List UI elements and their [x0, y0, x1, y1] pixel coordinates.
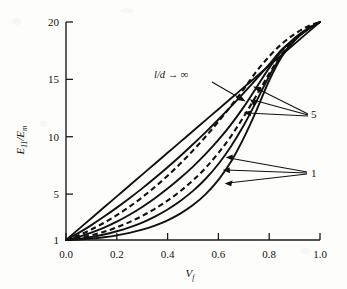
annotation-5-leader-c [247, 113, 308, 116]
y-axis-tick-label: 5 [54, 188, 60, 200]
x-axis-tick-label: 0.6 [212, 248, 226, 260]
data-curves [66, 22, 320, 240]
y-axis-title-denominator-sub: m [20, 125, 29, 131]
x-axis-tick-label: 0.0 [59, 248, 73, 260]
annotation-1-leader-b [226, 170, 307, 173]
y-axis-tick-label: 15 [48, 73, 60, 85]
y-axis-tick-labels: 15101520 [48, 16, 60, 246]
x-axis-tick-label: 0.4 [161, 248, 175, 260]
annotation-5-leader-a [256, 88, 308, 114]
annotation-1-leader-a [229, 158, 307, 172]
y-axis-title-numerator-sub: 11 [20, 141, 29, 148]
annotation-1-label: 1 [311, 167, 317, 179]
annotation-5-label: 5 [311, 108, 317, 120]
figure-container: 15101520 0.00.20.40.60.81.0 E11/Em Vf l/… [0, 0, 347, 289]
annotation-aspect-ratio-1: 1 [223, 155, 317, 187]
annotation-1-leader-c [228, 174, 307, 183]
y-axis-title: E11/Em [14, 125, 29, 155]
y-axis-tick-label: 10 [48, 131, 60, 143]
annotation-infinity-label: l/d → ∞ [154, 69, 188, 80]
x-axis-title-sub: f [192, 273, 195, 282]
annotation-1-arrowhead-c [225, 181, 233, 187]
x-axis-title: Vf [186, 267, 196, 282]
y-axis-tick-label: 20 [48, 16, 60, 28]
svg-text:Vf: Vf [186, 267, 196, 282]
chart-canvas: 15101520 0.00.20.40.60.81.0 E11/Em Vf l/… [0, 0, 347, 289]
x-axis-tick-label: 0.2 [110, 248, 124, 260]
x-axis-tick-label: 0.8 [262, 248, 276, 260]
y-axis-ticks [66, 22, 73, 240]
x-axis-tick-labels: 0.00.20.40.60.81.0 [59, 248, 327, 260]
x-axis-tick-label: 1.0 [313, 248, 327, 260]
annotation-5-leader-b [253, 100, 308, 115]
annotation-1-arrowhead-a [226, 155, 234, 161]
y-axis-tick-label: 1 [54, 234, 60, 246]
svg-text:E11/Em: E11/Em [14, 125, 29, 155]
